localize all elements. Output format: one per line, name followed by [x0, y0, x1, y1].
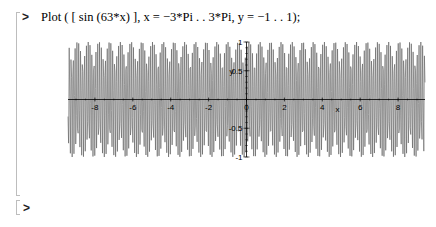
- x-tick-label: 4: [320, 103, 325, 112]
- y-axis-label: y: [230, 67, 234, 76]
- x-tick-label: 0: [244, 103, 249, 112]
- y-tick-label: 1: [238, 38, 243, 47]
- plot-output[interactable]: -8-6-4-202468-1-0.50.51xy: [0, 0, 436, 227]
- next-input-prompt[interactable]: >: [23, 201, 30, 215]
- x-tick-label: 6: [358, 103, 363, 112]
- x-tick-label: -4: [167, 103, 175, 112]
- x-tick-label: 2: [282, 103, 287, 112]
- x-tick-label: -6: [129, 103, 137, 112]
- x-tick-label: 8: [396, 103, 401, 112]
- x-tick-label: -8: [91, 103, 99, 112]
- next-group-bracket[interactable]: [16, 200, 20, 215]
- x-axis-label: x: [336, 105, 340, 114]
- y-tick-label: -0.5: [229, 124, 243, 133]
- y-tick-label: -1: [235, 153, 243, 162]
- x-tick-label: -2: [205, 103, 213, 112]
